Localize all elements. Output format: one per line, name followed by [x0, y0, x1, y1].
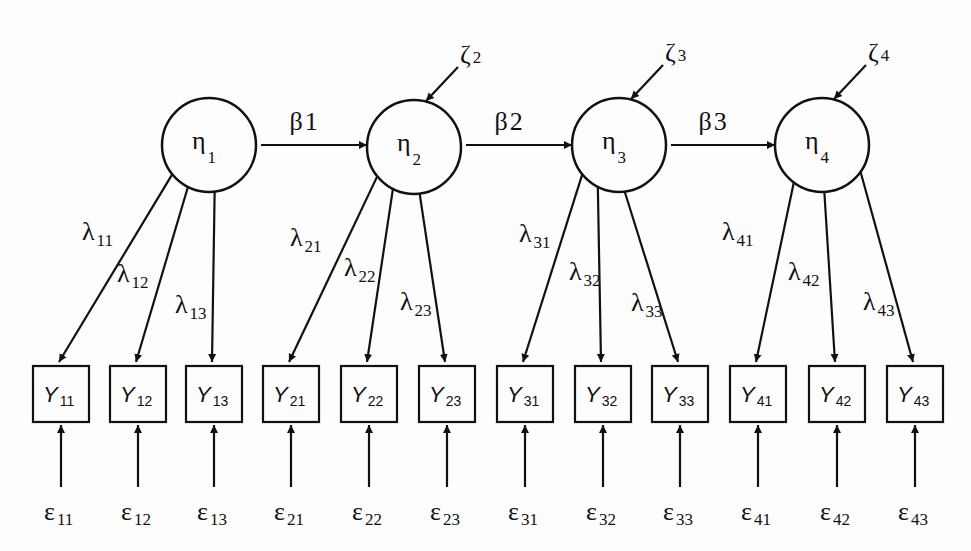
latent-label-eta3-subscript: 3 [618, 148, 627, 167]
latent-label-eta2-subscript: 2 [413, 150, 422, 169]
indicator-label-21-symbol: Y [273, 382, 289, 407]
lambda-label-41-symbol: λ [722, 217, 735, 246]
indicator-label-13-symbol: Y [196, 382, 212, 407]
latent-label-eta2-symbol: η [397, 128, 411, 157]
lambda-label-31-subscript: 31 [534, 233, 551, 252]
lambda-label-12-subscript: 12 [132, 273, 149, 292]
lambda-label-13-subscript: 13 [190, 304, 207, 323]
lambda-label-32: λ32 [569, 257, 601, 290]
beta-label-1-symbol: β [290, 107, 303, 136]
lambda-label-33: λ33 [631, 288, 663, 321]
beta-label-1-subscript: 1 [305, 107, 318, 136]
loading-arrow-33 [625, 192, 678, 362]
loading-arrow-23 [420, 194, 445, 362]
epsilon-label-13-subscript: 13 [210, 510, 227, 529]
latent-label-eta4-subscript: 4 [821, 148, 830, 167]
epsilon-label-43: ε43 [898, 497, 928, 529]
beta-label-2-subscript: 2 [510, 107, 523, 136]
lambda-label-12: λ12 [117, 259, 149, 292]
lambda-label-23-symbol: λ [400, 287, 413, 316]
epsilon-label-12-subscript: 12 [134, 510, 151, 529]
zeta-label-2-subscript: 3 [678, 46, 687, 65]
epsilon-label-11-subscript: 11 [57, 510, 73, 529]
epsilon-label-13-symbol: ε [197, 497, 208, 526]
epsilon-label-42: ε42 [820, 497, 850, 529]
sem-path-diagram: η1η2η3η4β1β2β3ζ2ζ3ζ4λ11Y11ε11λ12Y12ε12λ1… [0, 0, 971, 551]
lambda-label-41-subscript: 41 [737, 231, 754, 250]
indicator-label-21-subscript: 21 [290, 393, 306, 409]
lambda-label-33-symbol: λ [631, 288, 644, 317]
zeta-label-3: ζ4 [868, 38, 890, 67]
indicator-label-32-subscript: 32 [602, 393, 618, 409]
epsilon-label-21-symbol: ε [274, 497, 285, 526]
zeta-label-3-symbol: ζ [868, 38, 879, 67]
lambda-label-41: λ41 [722, 217, 754, 250]
lambda-label-33-subscript: 33 [646, 302, 663, 321]
indicator-label-43-subscript: 43 [914, 393, 930, 409]
epsilon-label-33: ε33 [663, 497, 693, 529]
lambda-label-22-subscript: 22 [359, 267, 376, 286]
latent-label-eta3-symbol: η [602, 126, 616, 155]
lambda-label-23: λ23 [400, 287, 432, 320]
indicator-label-43-symbol: Y [897, 382, 913, 407]
disturbance-arrow-eta2 [426, 67, 458, 101]
epsilon-label-43-symbol: ε [898, 497, 909, 526]
epsilon-label-41-symbol: ε [741, 497, 752, 526]
epsilon-label-12-symbol: ε [121, 497, 132, 526]
lambda-label-11-subscript: 11 [97, 231, 113, 250]
zeta-label-1-subscript: 2 [473, 48, 482, 67]
loading-arrow-13 [212, 192, 215, 362]
latent-label-eta1-symbol: η [192, 126, 206, 155]
latent-label-eta1-subscript: 1 [208, 148, 217, 167]
latent-eta2 [367, 100, 461, 194]
epsilon-label-22-symbol: ε [352, 497, 363, 526]
beta-label-3-subscript: 3 [714, 107, 727, 136]
epsilon-label-41-subscript: 41 [754, 510, 771, 529]
lambda-label-13-symbol: λ [175, 290, 188, 319]
lambda-label-21-symbol: λ [290, 223, 303, 252]
beta-label-1: β1 [290, 107, 318, 136]
indicator-label-23-symbol: Y [429, 382, 445, 407]
indicator-label-22-subscript: 22 [368, 393, 384, 409]
indicator-label-11-symbol: Y [43, 382, 59, 407]
epsilon-label-32-subscript: 32 [599, 510, 616, 529]
epsilon-label-13: ε13 [197, 497, 227, 529]
lambda-label-22: λ22 [344, 253, 376, 286]
indicator-label-33-symbol: Y [662, 382, 678, 407]
indicator-label-11-subscript: 11 [60, 393, 75, 409]
indicator-label-42-subscript: 42 [836, 393, 852, 409]
indicator-label-41-subscript: 41 [757, 393, 773, 409]
indicator-label-41-symbol: Y [740, 382, 756, 407]
loading-arrow-43 [861, 172, 913, 362]
epsilon-label-23-symbol: ε [430, 497, 441, 526]
indicator-label-22-symbol: Y [351, 382, 367, 407]
zeta-label-1-symbol: ζ [460, 40, 471, 69]
lambda-label-42-subscript: 42 [803, 271, 820, 290]
lambda-label-32-subscript: 32 [584, 271, 601, 290]
epsilon-label-11-symbol: ε [44, 497, 55, 526]
lambda-label-31: λ31 [519, 219, 551, 252]
epsilon-label-43-subscript: 43 [911, 510, 928, 529]
zeta-label-3-subscript: 4 [881, 46, 890, 65]
epsilon-label-33-subscript: 33 [676, 510, 693, 529]
epsilon-label-31-symbol: ε [508, 497, 519, 526]
indicator-label-31-symbol: Y [507, 382, 523, 407]
lambda-label-21: λ21 [290, 223, 322, 256]
lambda-label-31-symbol: λ [519, 219, 532, 248]
epsilon-label-32-symbol: ε [586, 497, 597, 526]
beta-label-3-symbol: β [699, 107, 712, 136]
beta-label-2-symbol: β [495, 107, 508, 136]
indicator-label-42-symbol: Y [819, 382, 835, 407]
lambda-label-43: λ43 [863, 287, 895, 320]
lambda-label-12-symbol: λ [117, 259, 130, 288]
epsilon-label-32: ε32 [586, 497, 616, 529]
epsilon-label-41: ε41 [741, 497, 771, 529]
zeta-label-2: ζ3 [665, 38, 686, 67]
epsilon-label-21: ε21 [274, 497, 304, 529]
latent-eta1 [162, 98, 256, 192]
lambda-label-23-subscript: 23 [415, 301, 432, 320]
disturbance-arrow-eta3 [631, 65, 663, 99]
zeta-label-2-symbol: ζ [665, 38, 676, 67]
loading-arrow-42 [824, 192, 835, 362]
lambda-label-22-symbol: λ [344, 253, 357, 282]
